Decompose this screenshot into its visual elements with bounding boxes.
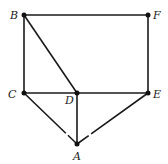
node-a	[75, 142, 80, 147]
label-a: A	[72, 150, 81, 163]
node-c	[22, 91, 27, 96]
edge-e-a	[77, 93, 148, 144]
edges	[24, 15, 148, 144]
node-b	[22, 13, 27, 18]
label-e: E	[152, 88, 161, 101]
graph-diagram: A B C D E F	[0, 0, 168, 164]
labels: A B C D E F	[8, 9, 161, 163]
node-d	[75, 91, 80, 96]
node-e	[146, 91, 151, 96]
label-f: F	[152, 9, 161, 22]
nodes	[22, 13, 151, 147]
label-c: C	[8, 88, 17, 101]
edge-b-d	[24, 15, 77, 93]
label-b: B	[9, 9, 18, 22]
label-d: D	[64, 94, 74, 107]
node-f	[146, 13, 151, 18]
